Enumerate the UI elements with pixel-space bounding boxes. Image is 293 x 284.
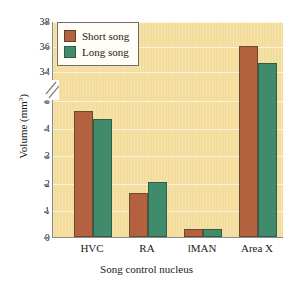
short-song-swatch-icon xyxy=(64,30,76,42)
bar-ra-long-song xyxy=(148,182,167,237)
y-tick-mark-2 xyxy=(44,184,49,186)
legend-item-short-song: Short song xyxy=(64,28,129,44)
y-tick-mark-34 xyxy=(44,72,49,74)
legend-label-short-song: Short song xyxy=(82,30,129,42)
y-tick-mark-38 xyxy=(44,22,49,24)
bar-ra-short-song xyxy=(129,193,148,237)
y-tick-mark-3 xyxy=(44,156,49,158)
y-tick-mark-0 xyxy=(44,237,49,239)
y-tick-mark-5 xyxy=(44,101,49,103)
bar-areax-short-song xyxy=(239,46,258,237)
bar-areax-long-song xyxy=(258,63,277,237)
y-axis-title-exponent: 3 xyxy=(17,98,25,102)
y-tick-mark-4 xyxy=(44,129,49,131)
long-song-swatch-icon xyxy=(64,46,76,58)
y-tick-mark-1 xyxy=(44,211,49,213)
axis-break-icon xyxy=(45,80,59,100)
legend-item-long-song: Long song xyxy=(64,44,129,60)
bar-hvc-long-song xyxy=(93,119,112,237)
bar-chart-figure: 38 36 34 5 4 3 2 1 0 Volume (mm3) HVC RA… xyxy=(0,0,293,284)
y-axis-title: Volume (mm3) xyxy=(17,56,30,196)
bar-hvc-short-song xyxy=(74,111,93,237)
x-tick-label-areax: Area X xyxy=(222,242,292,254)
x-axis-title: Song control nucleus xyxy=(0,263,293,275)
legend-label-long-song: Long song xyxy=(82,46,129,58)
y-axis-title-text: Volume (mm xyxy=(17,101,29,159)
bar-lman-short-song xyxy=(184,229,203,237)
y-tick-mark-36 xyxy=(44,47,49,49)
y-axis-title-close: ) xyxy=(17,94,29,98)
bar-lman-long-song xyxy=(203,229,222,237)
chart-legend: Short song Long song xyxy=(57,22,139,66)
